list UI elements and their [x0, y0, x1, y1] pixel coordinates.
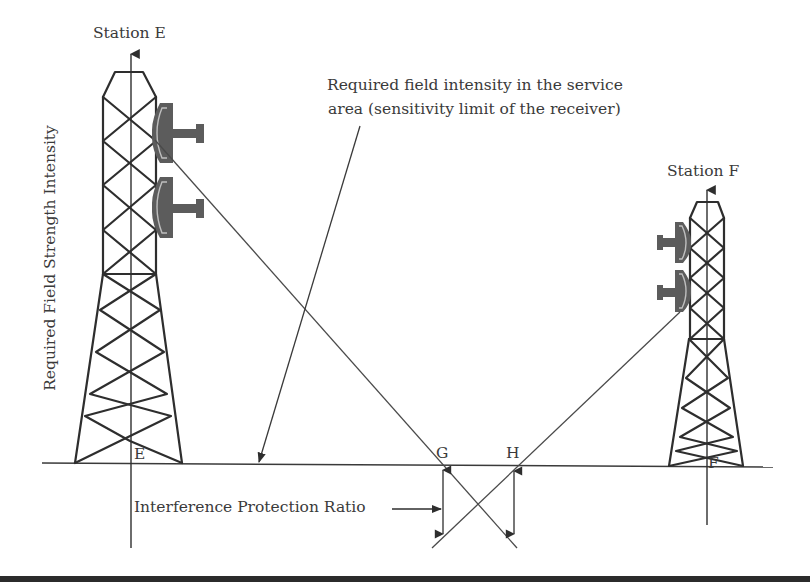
- bottom-edge-bar: [0, 576, 810, 582]
- callout-pointer-arrow: [259, 126, 360, 462]
- ground-line: [42, 463, 773, 467]
- point-label-h: H: [506, 444, 520, 462]
- antenna-dish-f1-icon: [657, 222, 691, 263]
- y-axis-label: Required Field Strength Intensity: [41, 125, 59, 391]
- protection-ratio-label: Interference Protection Ratio: [134, 498, 366, 516]
- signal-line-f: [432, 312, 680, 548]
- callout-text-line2: area (sensitivity limit of the receiver): [328, 100, 621, 118]
- antenna-dish-f2-icon: [657, 270, 691, 312]
- ground-label-e: E: [134, 445, 145, 463]
- station-e-title: Station E: [93, 24, 166, 42]
- station-f-title: Station F: [667, 162, 740, 180]
- point-label-g: G: [436, 444, 448, 462]
- diagram-canvas: Station E Station F E F G H Required fie…: [0, 0, 810, 582]
- antenna-dish-e1-icon: [152, 103, 204, 163]
- ground-label-f: F: [708, 454, 719, 472]
- callout-text-line1: Required field intensity in the service: [327, 76, 623, 94]
- signal-line-e: [155, 140, 517, 548]
